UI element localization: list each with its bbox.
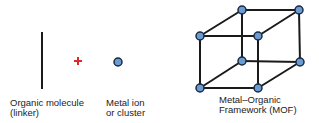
mof-node <box>196 84 204 92</box>
linker-label: Organic molecule (linker) <box>10 98 84 118</box>
mof-node <box>295 6 303 14</box>
mof-node <box>254 32 262 40</box>
mof-label: Metal–Organic Framework (MOF) <box>219 95 297 115</box>
mof-node <box>238 57 246 65</box>
plus-icon <box>74 57 82 65</box>
mof-node <box>254 84 262 92</box>
mof-node <box>196 32 204 40</box>
mof-node <box>238 6 246 14</box>
metal-label: Metal ion or cluster <box>106 98 145 118</box>
metal-ion-node <box>114 58 122 66</box>
mof-node <box>296 58 304 66</box>
mof-framework-edges <box>200 10 300 88</box>
